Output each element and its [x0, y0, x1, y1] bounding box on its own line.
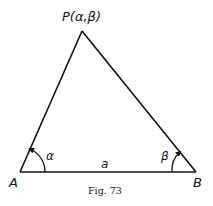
triangle-figure: P(α,β) A B α β a Fig. 73 [0, 0, 213, 206]
vertex-label-A: A [8, 175, 18, 190]
vertex-label-B: B [193, 175, 202, 190]
angle-arc-beta [172, 152, 180, 172]
side-PB [82, 31, 196, 172]
angle-arc-alpha [30, 149, 45, 172]
side-label-a: a [101, 157, 108, 171]
vertex-label-P: P(α,β) [62, 9, 101, 24]
angle-label-alpha: α [46, 149, 54, 163]
figure-caption: Fig. 73 [88, 185, 122, 196]
angle-label-beta: β [160, 149, 169, 163]
